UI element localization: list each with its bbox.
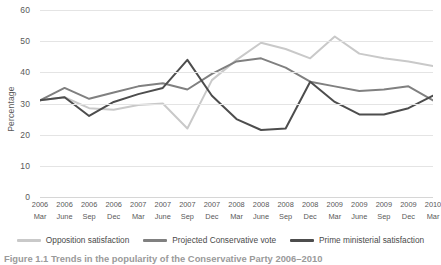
x-axis-ticks: 2006Mar2006June2006Sep2006Dec2007Mar2007…: [40, 199, 433, 225]
x-tick-year: 2010: [425, 199, 441, 211]
x-tick-month: Dec: [400, 211, 416, 223]
legend-label: Projected Conservative vote: [172, 235, 276, 245]
x-tick-month: June: [56, 211, 72, 223]
x-tick-year: 2006: [81, 199, 97, 211]
legend-swatch-icon: [143, 239, 167, 242]
legend-swatch-icon: [17, 239, 41, 242]
x-tick-year: 2008: [302, 199, 318, 211]
gridline-30: [40, 104, 433, 105]
x-tick-label: 2009Sep: [376, 199, 392, 222]
legend-label: Opposition satisfaction: [46, 235, 129, 245]
x-tick-label: 2010Mar: [425, 199, 441, 222]
x-tick-year: 2008: [277, 199, 293, 211]
x-tick-year: 2007: [204, 199, 220, 211]
legend-swatch-icon: [290, 239, 314, 242]
gridline-20: [40, 135, 433, 136]
x-tick-year: 2006: [56, 199, 72, 211]
x-tick-year: 2008: [228, 199, 244, 211]
x-tick-month: June: [351, 211, 367, 223]
x-tick-month: Mar: [327, 211, 343, 223]
x-tick-month: Mar: [425, 211, 441, 223]
x-tick-label: 2007Mar: [130, 199, 146, 222]
chart-figure: Percentage 0102030405060 2006Mar2006June…: [0, 0, 441, 265]
x-tick-label: 2007Sep: [179, 199, 195, 222]
gridline-60: [40, 10, 433, 11]
y-tick-label-60: 60: [20, 5, 30, 15]
y-axis-ticks: 0102030405060: [0, 10, 36, 197]
x-tick-label: 2008Sep: [277, 199, 293, 222]
gridline-50: [40, 41, 433, 42]
figure-caption: Figure 1.1 Trends in the popularity of t…: [4, 253, 437, 265]
x-tick-month: Mar: [130, 211, 146, 223]
x-tick-year: 2006: [32, 199, 48, 211]
x-tick-label: 2006June: [56, 199, 72, 222]
x-tick-label: 2007Dec: [204, 199, 220, 222]
x-tick-label: 2009June: [351, 199, 367, 222]
legend-item[interactable]: Opposition satisfaction: [17, 235, 129, 245]
gridlines: [40, 10, 433, 197]
x-tick-year: 2009: [376, 199, 392, 211]
x-tick-year: 2008: [253, 199, 269, 211]
x-tick-label: 2009Dec: [400, 199, 416, 222]
y-tick-label-0: 0: [25, 192, 30, 202]
x-tick-label: 2006Dec: [105, 199, 121, 222]
x-tick-month: Dec: [105, 211, 121, 223]
x-tick-label: 2006Mar: [32, 199, 48, 222]
legend-item[interactable]: Projected Conservative vote: [143, 235, 276, 245]
y-tick-label-20: 20: [20, 130, 30, 140]
x-tick-label: 2008Mar: [228, 199, 244, 222]
legend-label: Prime ministerial satisfaction: [319, 235, 424, 245]
legend-item[interactable]: Prime ministerial satisfaction: [290, 235, 424, 245]
x-tick-month: Sep: [179, 211, 195, 223]
x-tick-month: Sep: [277, 211, 293, 223]
x-tick-month: Sep: [376, 211, 392, 223]
y-tick-label-50: 50: [20, 36, 30, 46]
x-tick-year: 2009: [400, 199, 416, 211]
y-tick-label-10: 10: [20, 161, 30, 171]
plot-area: [40, 10, 433, 197]
x-tick-label: 2006Sep: [81, 199, 97, 222]
x-tick-label: 2007June: [155, 199, 171, 222]
x-tick-month: Sep: [81, 211, 97, 223]
x-tick-month: June: [253, 211, 269, 223]
x-tick-month: June: [155, 211, 171, 223]
y-tick-label-30: 30: [20, 99, 30, 109]
gridline-10: [40, 166, 433, 167]
x-tick-label: 2009Mar: [327, 199, 343, 222]
x-tick-month: Mar: [228, 211, 244, 223]
x-tick-year: 2007: [179, 199, 195, 211]
y-tick-label-40: 40: [20, 67, 30, 77]
x-tick-month: Dec: [204, 211, 220, 223]
x-tick-label: 2008Dec: [302, 199, 318, 222]
x-tick-year: 2006: [105, 199, 121, 211]
gridline-40: [40, 72, 433, 73]
x-tick-year: 2007: [155, 199, 171, 211]
x-tick-year: 2009: [351, 199, 367, 211]
x-tick-month: Dec: [302, 211, 318, 223]
x-tick-month: Mar: [32, 211, 48, 223]
chart-legend: Opposition satisfactionProjected Conserv…: [0, 232, 441, 248]
x-tick-year: 2009: [327, 199, 343, 211]
gridline-0: [40, 197, 433, 198]
x-tick-label: 2008June: [253, 199, 269, 222]
x-tick-year: 2007: [130, 199, 146, 211]
